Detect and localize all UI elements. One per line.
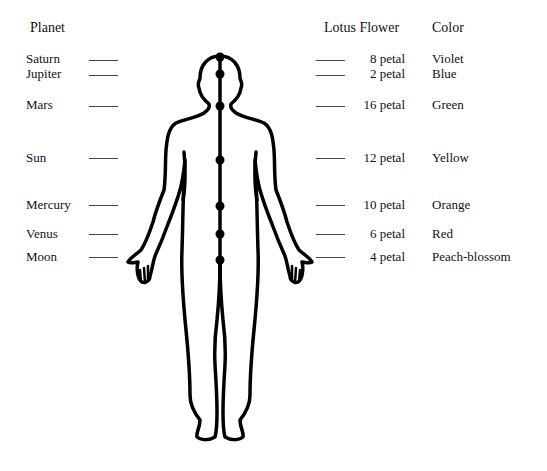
human-body-figure (0, 0, 547, 471)
